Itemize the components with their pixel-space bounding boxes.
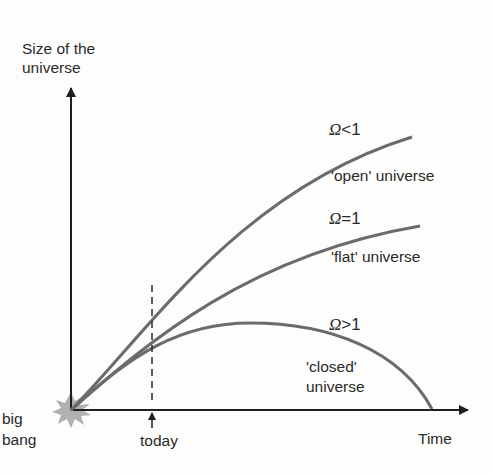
y-axis-label-line1: Size of the	[22, 39, 95, 59]
open-universe-label: 'open' universe	[331, 166, 434, 186]
closed-universe-label-line1: 'closed'	[306, 357, 357, 377]
today-label: today	[140, 431, 178, 451]
big-bang-label-line2: bang	[2, 430, 36, 450]
flat-universe-label: 'flat' universe	[331, 247, 421, 267]
closed-omega-label: Ω>1	[329, 315, 361, 335]
open-omega-label: Ω<1	[329, 120, 361, 140]
y-axis-label-line2: universe	[22, 58, 81, 78]
closed-universe-label-line2: universe	[306, 377, 365, 397]
big-bang-label-line1: big	[2, 409, 23, 429]
flat-omega-label: Ω=1	[329, 209, 361, 229]
closed-universe-curve	[71, 323, 432, 410]
x-axis-label: Time	[418, 429, 452, 449]
